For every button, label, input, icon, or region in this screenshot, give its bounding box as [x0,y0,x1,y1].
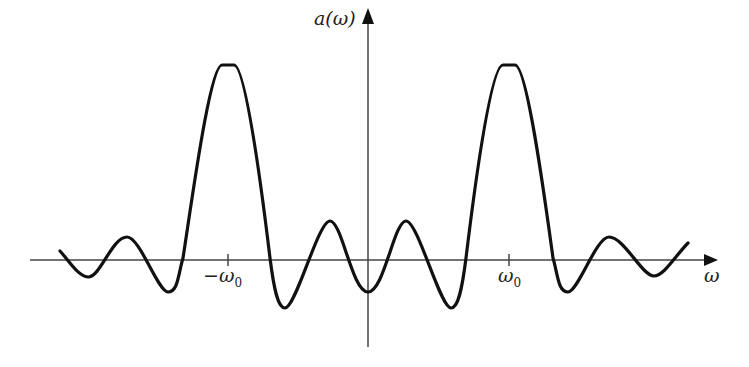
tick-label-omega0: ω0 [498,264,521,290]
diagram-canvas [0,0,749,367]
x-axis-label: ω [704,264,720,286]
y-axis-arrow-icon [362,8,374,24]
y-axis-label: a(ω) [314,7,356,29]
tick-label-neg-omega0: −ω0 [203,264,242,290]
response-curve [60,65,688,308]
